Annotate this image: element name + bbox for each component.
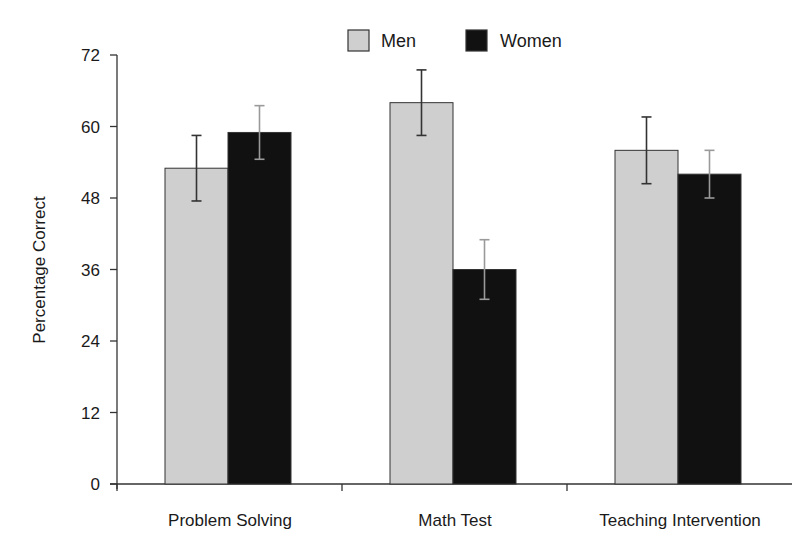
bar-men (165, 168, 228, 484)
bar-women (678, 174, 741, 484)
legend-label-women: Women (500, 31, 562, 51)
legend: MenWomen (348, 30, 562, 51)
x-category-label: Problem Solving (168, 511, 292, 530)
y-tick-label: 12 (81, 404, 100, 423)
legend-swatch-men (348, 30, 369, 51)
y-tick-label: 36 (81, 261, 100, 280)
bar-chart: MenWomen 0122436486072 Problem SolvingMa… (0, 0, 812, 555)
x-axis: Problem SolvingMath TestTeaching Interve… (110, 484, 792, 530)
y-tick-label: 72 (81, 46, 100, 65)
y-axis-title: Percentage Correct (30, 196, 49, 344)
x-category-label: Math Test (418, 511, 492, 530)
bar-women (453, 270, 516, 485)
bar-women (228, 132, 291, 484)
x-category-label: Teaching Intervention (599, 511, 761, 530)
y-axis: 0122436486072 (81, 46, 117, 494)
bar-men (390, 103, 453, 484)
legend-swatch-women (466, 30, 487, 51)
y-tick-label: 24 (81, 332, 100, 351)
y-tick-label: 60 (81, 118, 100, 137)
y-tick-label: 48 (81, 189, 100, 208)
bar-men (615, 150, 678, 484)
bars (165, 70, 741, 484)
y-tick-label: 0 (91, 475, 100, 494)
legend-label-men: Men (381, 31, 416, 51)
